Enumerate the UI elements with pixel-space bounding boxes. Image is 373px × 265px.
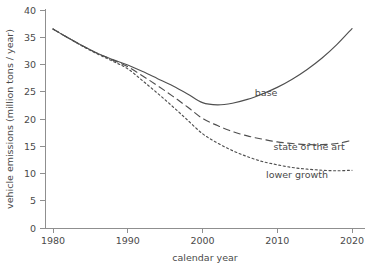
y-tick-label: 10: [24, 168, 36, 179]
series-label-state-of-the-art: state of the art: [274, 141, 346, 152]
x-tick-label: 1980: [41, 235, 65, 246]
x-axis: 19801990200020102020: [41, 228, 365, 246]
y-tick-label: 15: [24, 141, 36, 152]
series-line-state-of-the-art: [53, 29, 352, 145]
y-tick-label: 30: [24, 59, 36, 70]
x-tick-label: 2000: [190, 235, 214, 246]
x-axis-ticks: 19801990200020102020: [41, 228, 364, 246]
series-label-lower-growth: lower growth: [266, 169, 328, 180]
emissions-line-chart: 0510152025303540 19801990200020102020 ba…: [0, 0, 373, 265]
x-axis-title: calendar year: [172, 252, 238, 263]
series-line-base: [53, 29, 352, 105]
x-tick-label: 2020: [340, 235, 364, 246]
series-label-base: base: [255, 87, 278, 98]
x-tick-label: 2010: [265, 235, 289, 246]
y-tick-label: 40: [24, 5, 36, 16]
y-tick-label: 0: [30, 223, 36, 234]
y-axis-ticks: 0510152025303540: [24, 5, 45, 234]
y-axis: 0510152025303540: [24, 5, 45, 234]
y-tick-label: 5: [30, 195, 36, 206]
series-annotations: basestate of the artlower growth: [255, 87, 345, 180]
y-tick-label: 25: [24, 86, 36, 97]
y-tick-label: 35: [24, 32, 36, 43]
y-axis-title: vehicle emissions (million tons / year): [4, 29, 15, 209]
y-tick-label: 20: [24, 114, 36, 125]
chart-canvas: 0510152025303540 19801990200020102020 ba…: [0, 0, 373, 265]
x-tick-label: 1990: [116, 235, 140, 246]
